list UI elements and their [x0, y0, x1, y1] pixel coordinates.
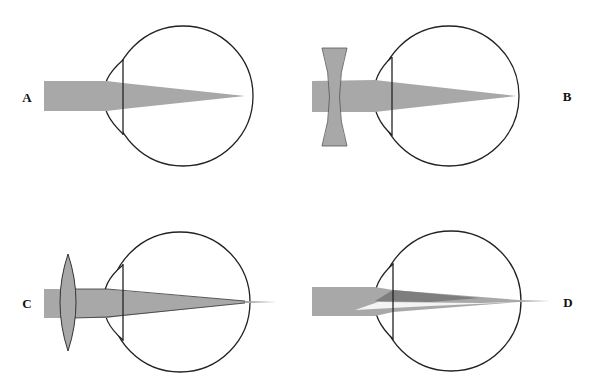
panel-d [312, 231, 550, 371]
panel-b [312, 26, 519, 166]
convex-lens-c [60, 254, 76, 351]
eye-optics-diagram [0, 0, 591, 386]
panel-label-d: D [563, 296, 572, 309]
panel-a [44, 26, 253, 166]
panel-label-c: C [22, 297, 31, 310]
panel-label-a: A [22, 91, 31, 104]
panel-c [44, 232, 277, 372]
panel-label-b: B [563, 90, 572, 103]
